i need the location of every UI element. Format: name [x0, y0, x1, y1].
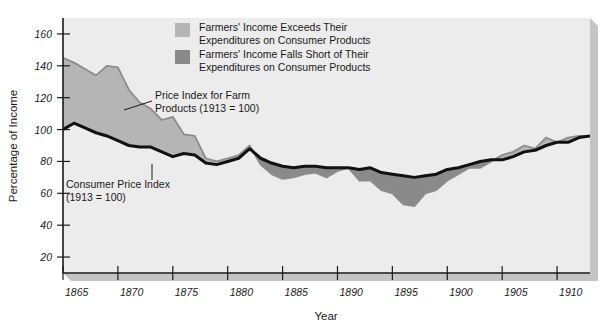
x-tick-label: 1885	[285, 286, 309, 298]
legend-label-income-exceeds-line2: Expenditures on Consumer Products	[199, 34, 371, 46]
annotation-farm-line2: Products (1913 = 100)	[155, 102, 259, 114]
legend-swatch-income-falls-short	[175, 50, 190, 64]
x-tick-label: 1910	[559, 286, 583, 298]
annotation-cpi-line1: Consumer Price Index	[66, 178, 171, 190]
y-tick-label: 140	[34, 60, 52, 72]
x-tick-label: 1895	[394, 286, 418, 298]
chart-figure: 2040608010012014016018651870187518801885…	[0, 0, 606, 329]
x-tick-label: 1905	[504, 286, 528, 298]
y-axis-title: Percentage of Income	[7, 90, 19, 203]
legend-label-income-exceeds-line1: Farmers' Income Exceeds Their	[199, 21, 348, 33]
y-tick-label: 20	[39, 251, 52, 263]
y-tick-label: 100	[34, 124, 52, 136]
x-tick-label: 1870	[120, 286, 144, 298]
y-tick-label: 80	[40, 155, 52, 167]
y-tick-label: 60	[40, 187, 52, 199]
x-tick-label: 1880	[230, 286, 254, 298]
x-tick-label: 1865	[65, 286, 89, 298]
legend-label-income-falls-short-line1: Farmers' Income Falls Short of Their	[199, 48, 369, 60]
x-tick-label: 1875	[175, 286, 199, 298]
annotation-farm-line1: Price Index for Farm	[155, 89, 250, 101]
legend-label-income-falls-short-line2: Expenditures on Consumer Products	[199, 61, 371, 73]
x-axis-title: Year	[314, 310, 337, 322]
x-tick-label: 1890	[339, 286, 363, 298]
y-tick-label: 40	[40, 219, 52, 231]
chart-canvas: 2040608010012014016018651870187518801885…	[0, 0, 606, 329]
y-tick-label: 160	[34, 28, 52, 40]
legend-swatch-income-exceeds	[175, 23, 190, 37]
annotation-cpi-line2: (1913 = 100)	[66, 191, 126, 203]
x-tick-label: 1900	[449, 286, 473, 298]
y-tick-label: 120	[34, 92, 52, 104]
